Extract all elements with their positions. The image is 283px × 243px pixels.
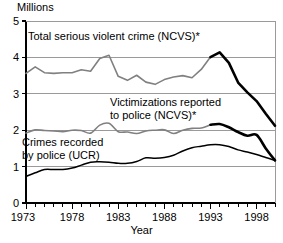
x-tick-label: 1998 xyxy=(244,211,268,223)
ann-reported: Victimizations reportedto police (NCVS)* xyxy=(110,96,221,121)
series-line-early xyxy=(26,55,210,84)
y-tick-label: 1 xyxy=(13,161,19,173)
series-line-early xyxy=(26,123,210,134)
y-tick-label: 3 xyxy=(13,88,19,100)
series-annotations-group: Total serious violent crime (NCVS)*Victi… xyxy=(22,30,221,161)
x-tick-label: 1983 xyxy=(106,211,130,223)
series-line-late xyxy=(210,124,275,161)
x-tick-label: 1988 xyxy=(152,211,176,223)
x-tick-labels-group: 197319781983198819931998 xyxy=(11,211,269,223)
line-chart-plot: 012345 197319781983198819931998 Total se… xyxy=(0,0,283,243)
ann-ucr: Crimes recordedby police (UCR) xyxy=(22,136,103,161)
y-tick-label: 4 xyxy=(13,51,19,63)
x-tick-label: 1993 xyxy=(198,211,222,223)
y-tick-label: 0 xyxy=(13,197,19,209)
annotation-line: Victimizations reported xyxy=(110,96,221,108)
y-tick-labels-group: 012345 xyxy=(13,15,19,209)
x-minor-ticks-group xyxy=(26,203,275,209)
chart-figure: Millions 012345 197319781983198819931998… xyxy=(0,0,283,243)
series-line-late xyxy=(210,52,275,126)
y-tick-label: 2 xyxy=(13,124,19,136)
annotation-line: Total serious violent crime (NCVS)* xyxy=(28,30,200,42)
ann-total: Total serious violent crime (NCVS)* xyxy=(28,30,200,42)
annotation-line: by police (UCR) xyxy=(22,149,100,161)
x-axis-title: Year xyxy=(0,224,283,236)
x-tick-label: 1978 xyxy=(60,211,84,223)
annotation-line: Crimes recorded xyxy=(22,136,103,148)
annotation-line: to police (NCVS)* xyxy=(110,109,197,121)
x-tick-label: 1973 xyxy=(11,211,35,223)
y-tick-label: 5 xyxy=(13,15,19,27)
